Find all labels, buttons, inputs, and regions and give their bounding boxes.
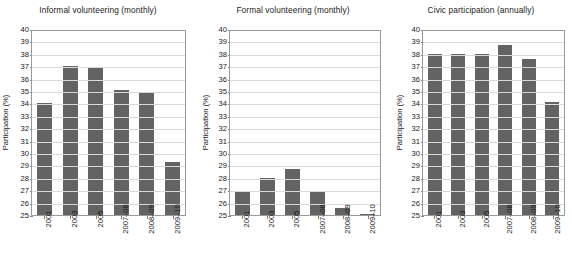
y-axis-tick-labels: 25262728293031323334353637383940 xyxy=(13,30,29,216)
x-tick-label: 2001 xyxy=(242,211,251,228)
bar xyxy=(545,102,559,215)
y-tick-label: 35 xyxy=(21,88,29,96)
gridline xyxy=(230,92,380,93)
y-tick-label: 39 xyxy=(219,39,227,47)
y-tick-label: 32 xyxy=(21,125,29,133)
x-tick-slot: 2009–10 xyxy=(541,216,565,272)
x-axis-tick-labels: 2001200320052007–082008–092009–10 xyxy=(31,216,186,272)
gridline xyxy=(230,67,380,68)
bar-slot xyxy=(330,31,355,215)
y-tick-label: 36 xyxy=(21,76,29,84)
gridline xyxy=(32,191,185,192)
y-tick-label: 32 xyxy=(219,125,227,133)
gridline xyxy=(423,129,564,130)
y-tick-label: 25 xyxy=(412,212,420,220)
x-axis-tick-labels: 2001200320052007–082008–092009–10 xyxy=(229,216,381,272)
plot-area xyxy=(422,30,565,216)
x-tick-slot: 2003 xyxy=(57,216,83,272)
chart-title: Civic participation (annually) xyxy=(390,5,572,15)
y-tick-label: 30 xyxy=(219,150,227,158)
y-tick-label: 25 xyxy=(219,212,227,220)
chart-panel-formal-volunteering: Formal volunteering (monthly) Participat… xyxy=(196,0,390,273)
y-tick-label: 37 xyxy=(21,63,29,71)
gridline xyxy=(230,166,380,167)
chart-panel-informal-volunteering: Informal volunteering (monthly) Particip… xyxy=(0,0,196,273)
x-tick-label: 2007–08 xyxy=(505,204,514,234)
y-tick-label: 37 xyxy=(412,63,420,71)
x-tick-label: 2007–08 xyxy=(121,204,130,234)
x-tick-slot: 2009–10 xyxy=(356,216,381,272)
x-tick-label: 2008–09 xyxy=(529,204,538,234)
y-tick-label: 29 xyxy=(412,163,420,171)
x-tick-label: 2007–08 xyxy=(318,204,327,234)
x-tick-label: 2005 xyxy=(482,211,491,228)
gridline xyxy=(32,179,185,180)
y-tick-label: 39 xyxy=(412,39,420,47)
y-tick-label: 28 xyxy=(21,175,29,183)
bar xyxy=(114,90,129,215)
gridline xyxy=(230,204,380,205)
bar-slot xyxy=(470,31,494,215)
y-tick-label: 38 xyxy=(219,51,227,59)
y-tick-label: 31 xyxy=(219,138,227,146)
y-tick-label: 27 xyxy=(219,187,227,195)
x-tick-slot: 2003 xyxy=(254,216,279,272)
x-tick-label: 2001 xyxy=(434,211,443,228)
y-tick-label: 34 xyxy=(219,101,227,109)
y-axis-tick-labels: 25262728293031323334353637383940 xyxy=(211,30,227,216)
y-tick-label: 36 xyxy=(412,76,420,84)
bar-group xyxy=(32,31,185,215)
gridline xyxy=(230,55,380,56)
gridline xyxy=(230,179,380,180)
y-tick-label: 28 xyxy=(219,175,227,183)
x-tick-slot: 2008–09 xyxy=(330,216,355,272)
bar-slot xyxy=(58,31,84,215)
x-tick-slot: 2005 xyxy=(83,216,109,272)
bar-slot xyxy=(255,31,280,215)
bar-group xyxy=(230,31,380,215)
y-tick-label: 33 xyxy=(21,113,29,121)
y-tick-label: 27 xyxy=(412,187,420,195)
gridline xyxy=(230,129,380,130)
y-tick-label: 38 xyxy=(21,51,29,59)
gridline xyxy=(423,42,564,43)
x-tick-label: 2009–10 xyxy=(368,204,377,234)
gridline xyxy=(423,55,564,56)
y-tick-label: 31 xyxy=(21,138,29,146)
x-tick-label: 2003 xyxy=(458,211,467,228)
x-tick-slot: 2001 xyxy=(31,216,57,272)
x-tick-slot: 2003 xyxy=(446,216,470,272)
bar-group xyxy=(423,31,564,215)
x-tick-label: 2008–09 xyxy=(343,204,352,234)
x-tick-slot: 2005 xyxy=(280,216,305,272)
x-tick-slot: 2007–08 xyxy=(305,216,330,272)
bar xyxy=(63,66,78,215)
x-tick-label: 2001 xyxy=(44,211,53,228)
x-tick-slot: 2007–08 xyxy=(108,216,134,272)
x-tick-slot: 2008–09 xyxy=(517,216,541,272)
bar-slot xyxy=(160,31,186,215)
gridline xyxy=(423,179,564,180)
y-tick-label: 40 xyxy=(412,26,420,34)
y-tick-label: 25 xyxy=(21,212,29,220)
gridline xyxy=(423,204,564,205)
x-tick-slot: 2001 xyxy=(229,216,254,272)
chart-title: Informal volunteering (monthly) xyxy=(0,5,196,15)
x-tick-slot: 2009–10 xyxy=(160,216,186,272)
gridline xyxy=(32,42,185,43)
gridline xyxy=(32,67,185,68)
x-axis-tick-labels: 2001200320052007–082008–092009–10 xyxy=(422,216,565,272)
plot-area xyxy=(31,30,186,216)
x-tick-slot: 2001 xyxy=(422,216,446,272)
x-tick-slot: 2007–08 xyxy=(493,216,517,272)
bar-slot xyxy=(109,31,135,215)
gridline xyxy=(423,191,564,192)
bar xyxy=(37,103,52,215)
bar-slot xyxy=(423,31,447,215)
gridline xyxy=(32,104,185,105)
bar-slot xyxy=(447,31,471,215)
bar-slot xyxy=(32,31,58,215)
gridline xyxy=(230,154,380,155)
x-tick-slot: 2008–09 xyxy=(134,216,160,272)
bar-slot xyxy=(541,31,565,215)
